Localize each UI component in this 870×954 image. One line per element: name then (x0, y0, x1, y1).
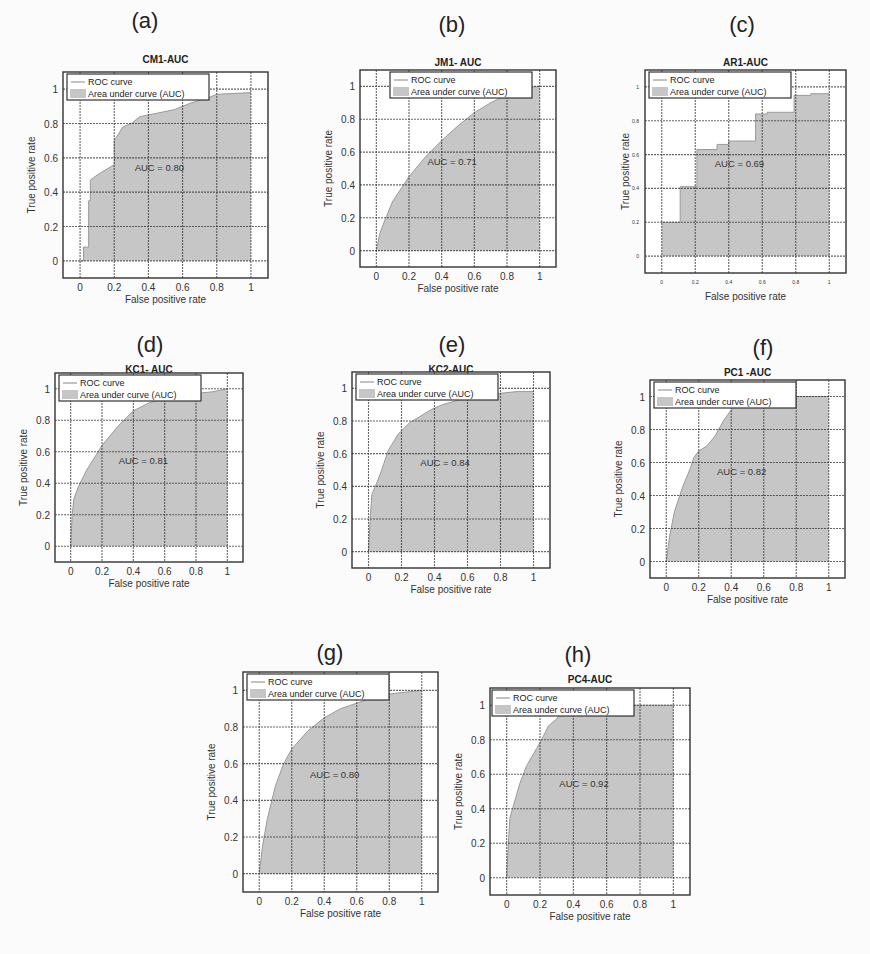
x-tick-label: 0.6 (467, 271, 481, 282)
panel-letter: (f) (733, 335, 793, 361)
x-axis-label: False positive rate (410, 584, 492, 595)
auc-annotation: AUC = 0.84 (420, 457, 469, 468)
svg-text:Area under curve (AUC): Area under curve (AUC) (80, 390, 177, 400)
svg-text:Area under curve (AUC): Area under curve (AUC) (377, 389, 474, 399)
y-tick-label: 1 (636, 84, 639, 90)
auc-annotation: AUC = 0.69 (715, 158, 764, 169)
y-axis-label: True positive rate (323, 130, 334, 207)
y-tick-label: 0.8 (341, 114, 355, 125)
x-tick-label: 0.4 (141, 282, 155, 293)
panel-letter: (c) (712, 12, 772, 38)
svg-text:ROC curve: ROC curve (675, 385, 720, 395)
y-axis-label: True positive rate (18, 429, 29, 506)
panel-letter: (e) (422, 332, 482, 358)
x-tick-label: 0.4 (725, 279, 732, 285)
svg-text:ROC curve: ROC curve (377, 377, 422, 387)
x-tick-label: 0.6 (158, 566, 172, 577)
y-tick-label: 1 (639, 392, 645, 403)
x-tick-label: 0.8 (494, 572, 508, 583)
x-tick-label: 0 (77, 282, 83, 293)
auc-annotation: AUC = 0.71 (427, 156, 476, 167)
x-tick-label: 0.4 (428, 572, 442, 583)
y-tick-label: 0.6 (631, 458, 645, 469)
x-tick-label: 0.4 (724, 582, 738, 593)
y-axis-label: True positive rate (620, 133, 631, 210)
x-tick-label: 0.4 (566, 899, 580, 910)
x-tick-label: 0.8 (210, 282, 224, 293)
y-tick-label: 0.8 (333, 416, 347, 427)
x-axis-label: False positive rate (125, 294, 207, 305)
y-axis-label: True positive rate (613, 440, 624, 517)
x-tick-label: 0.8 (500, 271, 514, 282)
y-tick-label: 0.8 (224, 722, 238, 733)
x-tick-label: 1 (419, 896, 425, 907)
y-tick-label: 0 (52, 256, 58, 267)
roc-chart: 000.20.20.40.40.60.60.80.811False positi… (10, 369, 249, 602)
y-tick-label: 0.4 (224, 795, 238, 806)
roc-chart: 000.20.20.40.40.60.60.80.811False positi… (198, 668, 444, 932)
y-tick-label: 1 (232, 685, 238, 696)
y-tick-label: 0.4 (44, 187, 58, 198)
y-tick-label: 0 (232, 869, 238, 880)
x-tick-label: 0 (663, 582, 669, 593)
x-tick-label: 1 (225, 566, 231, 577)
y-tick-label: 0.8 (36, 415, 50, 426)
x-tick-label: 0.6 (600, 899, 614, 910)
y-tick-label: 0.6 (224, 759, 238, 770)
y-axis-label: True positive rate (453, 753, 464, 830)
svg-text:Area under curve (AUC): Area under curve (AUC) (268, 689, 365, 699)
x-tick-label: 0.2 (395, 572, 409, 583)
x-tick-label: 1 (826, 582, 832, 593)
y-tick-label: 0.2 (632, 219, 639, 225)
y-tick-label: 0.8 (632, 118, 639, 124)
y-tick-label: 0.2 (224, 832, 238, 843)
x-tick-label: 0.6 (176, 282, 190, 293)
y-tick-label: 1 (479, 700, 485, 711)
svg-text:ROC curve: ROC curve (411, 75, 456, 85)
x-axis-label: False positive rate (707, 594, 789, 605)
y-tick-label: 0 (636, 253, 639, 259)
auc-annotation: AUC = 0.80 (310, 769, 359, 780)
x-tick-label: 0 (374, 271, 380, 282)
svg-text:Area under curve (AUC): Area under curve (AUC) (513, 705, 610, 715)
roc-chart: 000.20.20.40.40.60.60.80.811False positi… (445, 684, 696, 935)
y-tick-label: 0.4 (631, 491, 645, 502)
svg-text:ROC curve: ROC curve (670, 75, 715, 85)
y-tick-label: 0.6 (333, 449, 347, 460)
svg-text:Area under curve (AUC): Area under curve (AUC) (675, 397, 772, 407)
x-tick-label: 0.8 (633, 899, 647, 910)
chart-title: CM1-AUC (106, 54, 226, 65)
x-tick-label: 0.8 (789, 582, 803, 593)
roc-chart: 000.20.20.40.40.60.60.80.811False positi… (315, 66, 562, 307)
svg-text:ROC curve: ROC curve (268, 677, 313, 687)
auc-annotation: AUC = 0.92 (559, 778, 608, 789)
x-tick-label: 0 (504, 899, 510, 910)
roc-chart: 000.20.20.40.40.60.60.80.811False positi… (600, 66, 852, 313)
panel-letter: (d) (120, 332, 180, 358)
svg-text:ROC curve: ROC curve (513, 693, 558, 703)
x-tick-label: 0.2 (107, 282, 121, 293)
y-tick-label: 0.8 (471, 735, 485, 746)
y-tick-label: 0.6 (36, 447, 50, 458)
y-tick-label: 0 (479, 873, 485, 884)
svg-text:Area under curve (AUC): Area under curve (AUC) (411, 87, 508, 97)
x-tick-label: 0 (366, 572, 372, 583)
y-axis-label: True positive rate (206, 743, 217, 820)
y-tick-label: 0.4 (341, 180, 355, 191)
x-tick-label: 1 (248, 282, 254, 293)
x-axis-label: False positive rate (705, 291, 787, 302)
x-tick-label: 1 (531, 572, 537, 583)
x-tick-label: 1 (537, 271, 543, 282)
y-tick-label: 0 (639, 557, 645, 568)
y-tick-label: 1 (44, 384, 50, 395)
panel-letter: (b) (422, 12, 482, 38)
svg-text:ROC curve: ROC curve (88, 77, 133, 87)
y-tick-label: 1 (52, 84, 58, 95)
x-tick-label: 0.6 (350, 896, 364, 907)
y-tick-label: 0.2 (471, 838, 485, 849)
x-tick-label: 1 (671, 899, 677, 910)
y-tick-label: 0.2 (333, 514, 347, 525)
x-tick-label: 1 (828, 279, 831, 285)
x-tick-label: 0.6 (461, 572, 475, 583)
y-tick-label: 0.4 (471, 804, 485, 815)
